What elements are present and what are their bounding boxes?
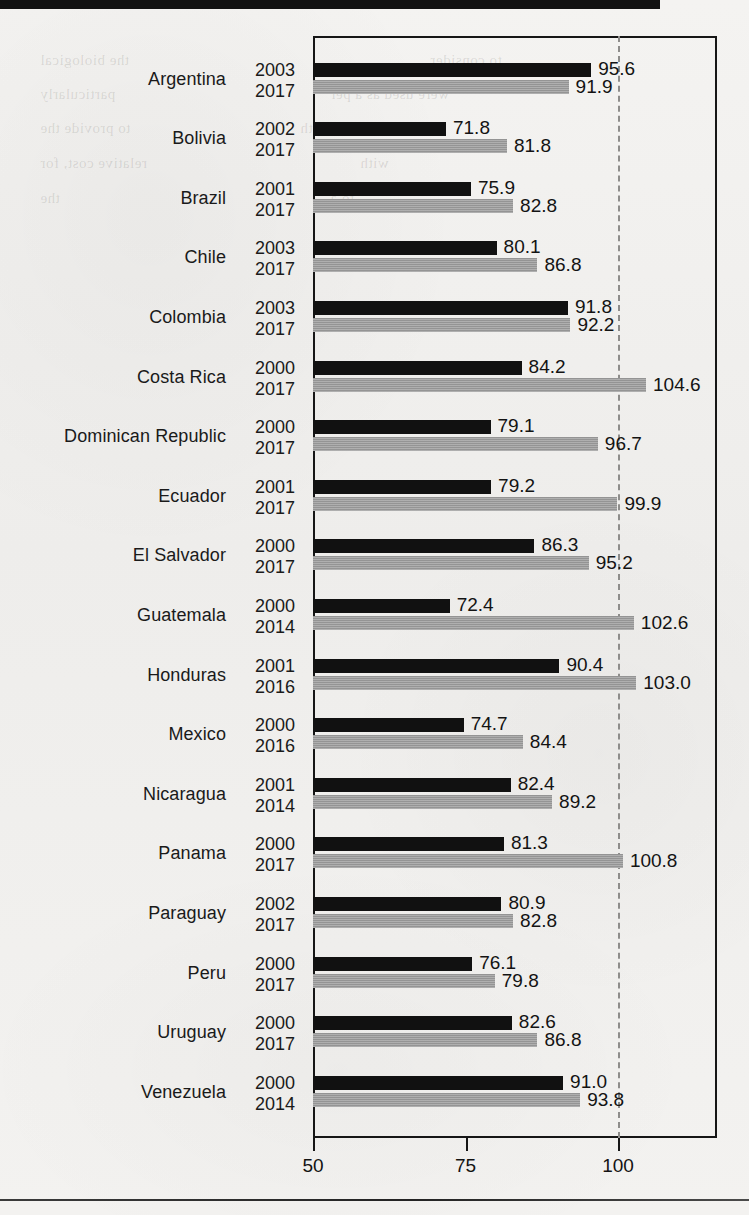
bar-late bbox=[313, 139, 507, 153]
country-label: Costa Rica bbox=[0, 367, 226, 388]
bar-late bbox=[313, 854, 623, 868]
bar-early bbox=[313, 1076, 563, 1090]
bar-late bbox=[313, 1033, 537, 1047]
x-axis-tick-label: 75 bbox=[455, 1155, 476, 1177]
value-label-early: 82.4 bbox=[518, 773, 555, 795]
year-labels: 20012016 bbox=[232, 656, 295, 698]
year-labels: 20012014 bbox=[232, 775, 295, 817]
value-label-late: 103.0 bbox=[643, 672, 691, 694]
bar-early bbox=[313, 897, 501, 911]
bar-late bbox=[313, 974, 495, 988]
country-label: Paraguay bbox=[0, 903, 226, 924]
bar-late bbox=[313, 199, 513, 213]
value-label-late: 99.9 bbox=[624, 493, 661, 515]
value-label-early: 72.4 bbox=[457, 594, 494, 616]
country-label: Mexico bbox=[0, 724, 226, 745]
horizontal-bar-chart: Argentina2003201795.691.9Bolivia20022017… bbox=[0, 0, 749, 1215]
bar-late bbox=[313, 497, 617, 511]
x-axis-tick bbox=[313, 1138, 315, 1151]
bar-late bbox=[313, 676, 636, 690]
country-label: Panama bbox=[0, 843, 226, 864]
value-label-early: 90.4 bbox=[566, 654, 603, 676]
year-labels: 20012017 bbox=[232, 179, 295, 221]
year-label-early: 2000 bbox=[232, 715, 295, 736]
country-label: Argentina bbox=[0, 69, 226, 90]
year-labels: 20032017 bbox=[232, 60, 295, 102]
value-label-late: 86.8 bbox=[544, 1029, 581, 1051]
bar-early bbox=[313, 241, 497, 255]
value-label-early: 71.8 bbox=[453, 117, 490, 139]
bar-early bbox=[313, 718, 464, 732]
bar-early bbox=[313, 957, 472, 971]
year-label-early: 2001 bbox=[232, 477, 295, 498]
year-labels: 20012017 bbox=[232, 477, 295, 519]
year-labels: 20002017 bbox=[232, 536, 295, 578]
year-label-early: 2000 bbox=[232, 417, 295, 438]
year-label-late: 2017 bbox=[232, 855, 295, 876]
bar-late bbox=[313, 1093, 580, 1107]
bar-late bbox=[313, 258, 537, 272]
x-axis-tick-label: 100 bbox=[602, 1155, 634, 1177]
bar-early bbox=[313, 361, 522, 375]
bar-early bbox=[313, 63, 591, 77]
year-label-late: 2017 bbox=[232, 81, 295, 102]
bar-early bbox=[313, 539, 534, 553]
value-label-late: 89.2 bbox=[559, 791, 596, 813]
year-label-late: 2014 bbox=[232, 617, 295, 638]
year-label-late: 2017 bbox=[232, 200, 295, 221]
value-label-early: 75.9 bbox=[478, 177, 515, 199]
year-labels: 20022017 bbox=[232, 119, 295, 161]
country-label: Nicaragua bbox=[0, 784, 226, 805]
country-label: El Salvador bbox=[0, 545, 226, 566]
year-label-late: 2017 bbox=[232, 140, 295, 161]
year-label-early: 2003 bbox=[232, 60, 295, 81]
value-label-early: 84.2 bbox=[529, 356, 566, 378]
year-label-early: 2000 bbox=[232, 1073, 295, 1094]
value-label-late: 79.8 bbox=[502, 970, 539, 992]
country-label: Dominican Republic bbox=[0, 426, 226, 447]
value-label-late: 82.8 bbox=[520, 195, 557, 217]
value-label-late: 81.8 bbox=[514, 135, 551, 157]
year-label-late: 2014 bbox=[232, 796, 295, 817]
year-label-late: 2017 bbox=[232, 319, 295, 340]
year-label-late: 2017 bbox=[232, 975, 295, 996]
bar-early bbox=[313, 420, 491, 434]
year-label-early: 2003 bbox=[232, 298, 295, 319]
year-label-late: 2016 bbox=[232, 736, 295, 757]
country-label: Ecuador bbox=[0, 486, 226, 507]
country-label: Colombia bbox=[0, 307, 226, 328]
bar-early bbox=[313, 480, 491, 494]
year-labels: 20002017 bbox=[232, 358, 295, 400]
x-axis-tick-label: 50 bbox=[302, 1155, 323, 1177]
country-label: Chile bbox=[0, 247, 226, 268]
year-label-early: 2002 bbox=[232, 119, 295, 140]
country-label: Venezuela bbox=[0, 1082, 226, 1103]
year-label-late: 2017 bbox=[232, 915, 295, 936]
value-label-late: 82.8 bbox=[520, 910, 557, 932]
value-label-early: 79.1 bbox=[498, 415, 535, 437]
chart-rows: Argentina2003201795.691.9Bolivia20022017… bbox=[0, 0, 749, 1215]
x-axis-tick bbox=[466, 1138, 468, 1151]
bar-late bbox=[313, 556, 589, 570]
value-label-late: 93.8 bbox=[587, 1089, 624, 1111]
year-labels: 20032017 bbox=[232, 238, 295, 280]
year-label-early: 2003 bbox=[232, 238, 295, 259]
year-label-early: 2001 bbox=[232, 775, 295, 796]
year-labels: 20002014 bbox=[232, 596, 295, 638]
value-label-late: 104.6 bbox=[653, 374, 701, 396]
year-labels: 20002017 bbox=[232, 954, 295, 996]
year-label-late: 2017 bbox=[232, 379, 295, 400]
country-label: Peru bbox=[0, 963, 226, 984]
country-label: Brazil bbox=[0, 188, 226, 209]
value-label-early: 79.2 bbox=[498, 475, 535, 497]
value-label-early: 74.7 bbox=[471, 713, 508, 735]
value-label-late: 92.2 bbox=[577, 314, 614, 336]
value-label-late: 86.8 bbox=[544, 254, 581, 276]
value-label-early: 81.3 bbox=[511, 832, 548, 854]
year-labels: 20002017 bbox=[232, 417, 295, 459]
year-label-late: 2017 bbox=[232, 557, 295, 578]
bar-early bbox=[313, 837, 504, 851]
year-label-early: 2001 bbox=[232, 179, 295, 200]
x-axis-tick bbox=[618, 1138, 620, 1151]
year-label-late: 2017 bbox=[232, 1034, 295, 1055]
